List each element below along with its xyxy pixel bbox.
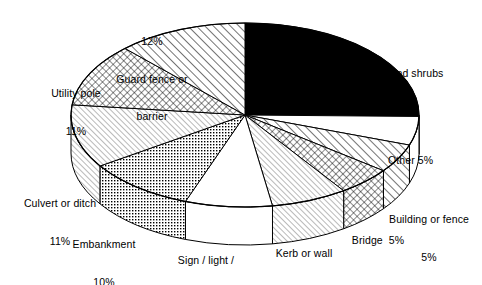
building-pct: 5% [378, 251, 480, 264]
slice-label-embankment: Embankment 10% [50, 213, 158, 285]
pie-chart: 12% Guard fence or barrier Utility pole … [0, 0, 482, 285]
embankment-name: Embankment [50, 238, 158, 251]
guard-fence-pct: 12% [98, 35, 206, 48]
trees-pct: 25% [340, 105, 464, 118]
slice-label-building: Building or fence 5% [378, 188, 480, 285]
slice-label-trees: Trees and shrubs 25% [340, 42, 464, 142]
sign-light-name-line1: Sign / light / [148, 254, 264, 267]
culvert-name: Culvert or ditch [4, 197, 116, 210]
slice-label-utility-pole: Utility pole 11% [28, 62, 124, 162]
embankment-pct: 10% [50, 276, 158, 285]
other-text: Other 5% [388, 154, 470, 167]
trees-name: Trees and shrubs [340, 67, 464, 80]
building-name: Building or fence [378, 213, 480, 226]
utility-pole-name: Utility pole [28, 87, 124, 100]
slice-label-sign-light: Sign / light / miscellaneous 8% [148, 229, 264, 285]
utility-pole-pct: 11% [28, 125, 124, 138]
